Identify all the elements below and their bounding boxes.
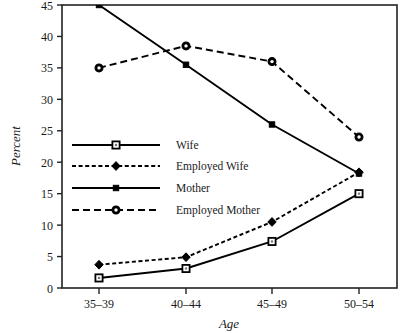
y-tick-label: 15 <box>41 187 53 201</box>
x-tick-label: 35–39 <box>84 297 114 311</box>
data-point-center <box>358 193 360 195</box>
legend-label-2: Mother <box>176 182 210 194</box>
data-point-center <box>185 267 187 269</box>
y-tick-label: 40 <box>41 30 53 44</box>
y-tick-label: 0 <box>47 282 53 296</box>
y-tick-label: 30 <box>41 93 53 107</box>
data-point <box>356 171 361 176</box>
data-point <box>183 62 188 67</box>
y-axis-title: Percent <box>8 126 23 167</box>
y-tick-label: 25 <box>41 124 53 138</box>
data-point <box>269 122 274 127</box>
legend-label-1: Employed Wife <box>176 160 248 173</box>
x-axis-title: Age <box>218 316 239 331</box>
y-tick-label: 10 <box>41 219 53 233</box>
legend-marker-3-center <box>114 208 117 211</box>
y-tick-label: 35 <box>41 61 53 75</box>
legend-marker-0-center <box>115 144 117 146</box>
data-point-center <box>271 240 273 242</box>
y-tick-label: 20 <box>41 156 53 170</box>
x-tick-label: 40–44 <box>171 297 201 311</box>
chart-container: 051015202530354045 35–3940–4445–4950–54 … <box>0 0 416 333</box>
legend-label-0: Wife <box>176 139 199 151</box>
x-tick-label: 45–49 <box>257 297 287 311</box>
y-tick-label: 5 <box>47 250 53 264</box>
legend-marker-2 <box>113 185 118 190</box>
data-point-center <box>357 135 360 138</box>
data-point-center <box>270 60 273 63</box>
data-point-center <box>184 44 187 47</box>
legend-label-3: Employed Mother <box>176 204 260 217</box>
line-chart: 051015202530354045 35–3940–4445–4950–54 … <box>0 0 416 333</box>
x-tick-label: 50–54 <box>344 297 374 311</box>
y-tick-label: 45 <box>41 0 53 13</box>
data-point-center <box>98 277 100 279</box>
data-point-center <box>97 66 100 69</box>
